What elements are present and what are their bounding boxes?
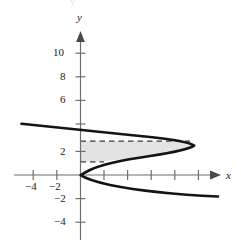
y-tick-label-neg2: −2 [54,193,66,204]
y-tick-label-6: 6 [60,94,66,105]
y-axis-arrowhead [76,31,85,42]
x-tick-label-neg4: −4 [25,181,37,192]
y-tick-label-8: 8 [60,71,66,82]
x-tick-label-neg2: −2 [49,181,61,192]
y-tick-label-neg4: −4 [54,216,66,227]
graph-figure: y [0,0,241,250]
y-axis-label: y [77,12,82,23]
x-axis-label: x [226,170,231,181]
y-tick-label-2: 2 [60,146,66,157]
x-axis-arrowhead [210,171,221,180]
coordinate-plane-svg [0,0,241,250]
ghost-top-glyph: y [70,0,75,7]
y-tick-label-10: 10 [53,47,64,58]
